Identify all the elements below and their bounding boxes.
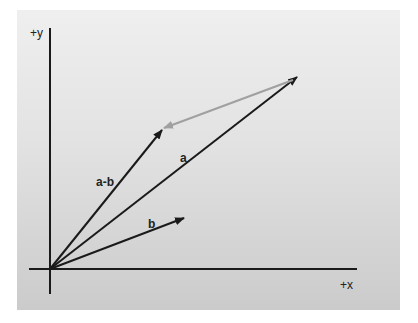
vector-b-label: b [148,217,155,231]
vector-diagram: +y +x a b a-b [0,0,418,323]
y-axis-label: +y [30,26,43,40]
x-axis-label: +x [340,278,353,292]
vector-a-label: a [180,151,187,165]
vector-minus-b [164,80,293,128]
vector-a [50,77,297,269]
vector-a-minus-b-label: a-b [96,175,114,189]
